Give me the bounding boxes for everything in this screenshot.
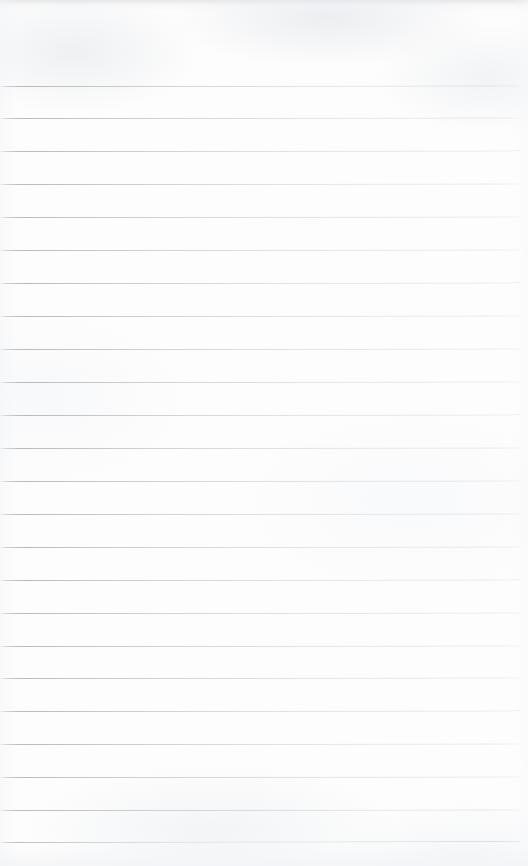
rule-line (0, 809, 520, 811)
rule-line (0, 316, 520, 317)
rule-line (0, 282, 520, 284)
rule-line (0, 743, 520, 745)
rule-line (0, 678, 520, 679)
rule-line (0, 579, 520, 581)
rule-line (0, 481, 520, 482)
rule-line (0, 777, 520, 778)
rule-line (0, 547, 520, 548)
rule-line (0, 513, 520, 515)
rule-line (0, 216, 520, 218)
rule-line (0, 85, 520, 87)
rule-line (0, 250, 520, 251)
rule-line (0, 613, 520, 614)
rule-line (0, 447, 520, 449)
rule-line (0, 382, 520, 383)
scanned-ruled-page (0, 0, 528, 866)
rule-line (0, 118, 520, 119)
rule-line (0, 645, 520, 647)
rule-line (0, 710, 520, 712)
rule-line (0, 348, 520, 350)
rule-line (0, 184, 520, 185)
rule-line (0, 841, 520, 843)
rule-line (0, 414, 520, 416)
rule-line (0, 150, 520, 152)
ruled-lines-group (0, 0, 528, 866)
